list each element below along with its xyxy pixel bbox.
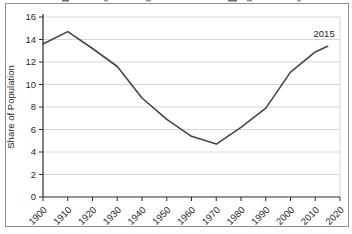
x-tick-label-1900: 1900 xyxy=(26,204,49,227)
cropped-caption-fragment xyxy=(62,0,301,2)
x-tick-label-1930: 1930 xyxy=(100,204,123,227)
x-tick-label-1980: 1980 xyxy=(224,204,247,227)
y-tick-label-6: 6 xyxy=(31,124,36,135)
y-tick-label-14: 14 xyxy=(25,34,36,45)
y-tick-label-12: 12 xyxy=(25,56,36,67)
x-tick-label-1950: 1950 xyxy=(150,204,173,227)
tick-marks xyxy=(39,17,340,201)
y-tick-label-10: 10 xyxy=(25,79,36,90)
population-share-chart: 0246810121416190019101920193019401950196… xyxy=(0,0,352,234)
x-tick-label-2000: 2000 xyxy=(274,204,297,227)
x-tick-label-1960: 1960 xyxy=(175,204,198,227)
x-tick-label-1970: 1970 xyxy=(199,204,222,227)
annotation-2015: 2015 xyxy=(314,28,335,39)
y-axis-title: Share of Population xyxy=(5,65,16,148)
x-tick-label-1990: 1990 xyxy=(249,204,272,227)
series-layer xyxy=(43,32,328,145)
gridlines xyxy=(43,17,340,197)
y-tick-label-4: 4 xyxy=(31,146,36,157)
series-line-0 xyxy=(43,32,328,145)
y-tick-label-0: 0 xyxy=(31,191,36,202)
annotation-layer: 2015 xyxy=(314,28,335,39)
axes xyxy=(43,14,340,197)
y-tick-label-16: 16 xyxy=(25,11,36,22)
tick-labels: 0246810121416190019101920193019401950196… xyxy=(5,11,346,227)
x-tick-label-1940: 1940 xyxy=(125,204,148,227)
x-tick-label-1920: 1920 xyxy=(76,204,99,227)
y-tick-label-8: 8 xyxy=(31,101,36,112)
y-tick-label-2: 2 xyxy=(31,169,36,180)
x-tick-label-2020: 2020 xyxy=(323,204,346,227)
chart-window: 0246810121416190019101920193019401950196… xyxy=(0,0,352,234)
x-tick-label-2010: 2010 xyxy=(298,204,321,227)
x-tick-label-1910: 1910 xyxy=(51,204,74,227)
